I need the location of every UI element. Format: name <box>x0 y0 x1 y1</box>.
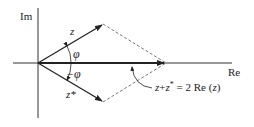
neg-phi-label: −φ <box>66 67 81 81</box>
angle-arc-phi <box>67 46 71 62</box>
complex-plane-diagram: Im Re z z* φ −φ z+z* = 2 Re (z) <box>0 0 254 127</box>
imag-axis-label: Im <box>20 10 33 22</box>
diagram-svg: Im Re z z* φ −φ z+z* = 2 Re (z) <box>0 0 254 127</box>
dashed-upper-side <box>103 24 166 63</box>
z-label: z <box>69 25 75 37</box>
phi-label: φ <box>73 47 80 61</box>
z-conjugate-label: z* <box>65 88 76 100</box>
sum-annotation: z+z* = 2 Re (z) <box>154 80 221 94</box>
real-axis-label: Re <box>228 66 240 78</box>
